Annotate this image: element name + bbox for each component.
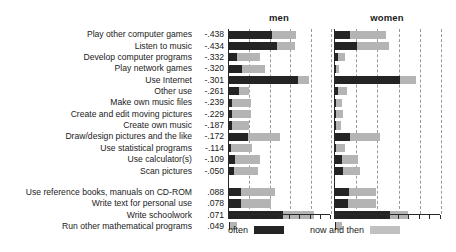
plot-panel-men (228, 29, 331, 214)
category-label: Create own music (123, 121, 192, 130)
category-loading-value: -.320 (197, 64, 224, 73)
category-loading-value: .049 (197, 222, 224, 231)
category-loading-value: -.332 (197, 53, 224, 62)
panel-title-men: men (228, 12, 330, 23)
category-loading-value: -.187 (197, 121, 224, 130)
bar-row (229, 120, 331, 131)
stacked-bar (229, 133, 280, 141)
bar-segment-now-and-then (232, 110, 251, 118)
stacked-bar (335, 167, 360, 175)
category-loading-value: -.261 (197, 87, 224, 96)
bar-segment-now-and-then (237, 53, 259, 61)
bar-row (229, 186, 331, 197)
axis-tick (419, 215, 420, 219)
category-label-row: Play network games-.320 (0, 63, 224, 74)
stacked-bar (229, 53, 260, 61)
bar-segment-now-and-then (336, 99, 342, 107)
category-label-row: Develop computer programs-.332 (0, 52, 224, 63)
stacked-bar (229, 144, 252, 152)
category-label: Play network games (115, 64, 192, 73)
bar-segment-often (335, 167, 343, 175)
bar-row (335, 186, 441, 197)
axis-tick (228, 215, 229, 219)
bar-row (335, 154, 441, 165)
bar-segment-often (229, 42, 277, 50)
axis-tick (345, 215, 346, 219)
bar-segment-often (335, 42, 357, 50)
category-label-row: Write schoolwork.071 (0, 209, 224, 220)
category-label: Write schoolwork (127, 211, 192, 220)
category-loading-value: -.434 (197, 42, 224, 51)
axis-tick (269, 215, 270, 219)
axis-tick (387, 215, 388, 219)
bar-row (229, 63, 331, 74)
bar-group-spacer (335, 176, 441, 186)
bar-segment-often (229, 53, 237, 61)
bar-rows-men (229, 29, 331, 214)
bar-segment-now-and-then (350, 31, 386, 39)
stacked-bar (229, 121, 249, 129)
bar-segment-now-and-then (350, 133, 380, 141)
bar-chart: men women Play other computer games-.438… (0, 0, 456, 252)
axis-tick (334, 215, 335, 219)
bar-segment-now-and-then (338, 87, 346, 95)
legend-item-now-and-then: now and then (310, 225, 400, 235)
bar-segment-now-and-then (277, 42, 295, 50)
chart-legend: often now and then (228, 222, 440, 238)
panel-title-women: women (334, 12, 440, 23)
category-loading-value: -.239 (197, 98, 224, 107)
stacked-bar (335, 65, 339, 73)
category-loading-value: .078 (197, 199, 224, 208)
axis-tick (355, 215, 356, 219)
axis-tick (429, 215, 430, 219)
stacked-bar (335, 110, 343, 118)
category-loading-value: -.109 (197, 155, 224, 164)
bar-segment-often (229, 199, 241, 207)
bar-segment-often (335, 133, 350, 141)
axis-tick (398, 215, 399, 219)
category-label-row: Create own music-.187 (0, 120, 224, 131)
bar-row (335, 131, 441, 142)
category-label: Use calculator(s) (128, 155, 192, 164)
bar-segment-now-and-then (336, 110, 343, 118)
bar-segment-now-and-then (357, 42, 389, 50)
bar-row (335, 63, 441, 74)
bar-segment-often (229, 76, 298, 84)
stacked-bar (229, 155, 260, 163)
stacked-bar (229, 42, 295, 50)
legend-swatch-now-and-then-icon (370, 226, 400, 234)
axis-tick (310, 215, 311, 219)
stacked-bar (229, 167, 258, 175)
category-loading-value: -.114 (197, 144, 224, 153)
axis-tick (320, 215, 321, 219)
bar-segment-now-and-then (349, 188, 377, 196)
category-label-row: Use statistical programs-.114 (0, 142, 224, 153)
stacked-bar (229, 99, 251, 107)
bar-segment-now-and-then (232, 99, 251, 107)
stacked-bar (229, 87, 249, 95)
category-loading-value: -.050 (197, 167, 224, 176)
axis-tick (299, 215, 300, 219)
bar-segment-now-and-then (272, 31, 296, 39)
category-label-row: Other use-.261 (0, 86, 224, 97)
bar-row (229, 52, 331, 63)
stacked-bar (335, 121, 341, 129)
bar-segment-now-and-then (241, 199, 271, 207)
category-label: Use Internet (145, 76, 192, 85)
axis-tick (330, 215, 331, 219)
category-label-row: Listen to music-.434 (0, 40, 224, 51)
x-axis-women (334, 214, 440, 215)
bar-segment-often (229, 133, 248, 141)
bar-segment-now-and-then (338, 53, 344, 61)
bar-row (335, 108, 441, 119)
category-label: Use statistical programs (100, 144, 192, 153)
category-label: Other use (154, 87, 192, 96)
category-label-column: Play other computer games-.438Listen to … (0, 29, 224, 232)
bar-segment-often (335, 155, 342, 163)
legend-item-often: often (228, 225, 284, 235)
axis-tick (376, 215, 377, 219)
legend-swatch-often-icon (254, 226, 284, 234)
category-label: Use reference books, manuals on CD-ROM (26, 188, 192, 197)
axis-tick (259, 215, 260, 219)
category-label-row: Use reference books, manuals on CD-ROM.0… (0, 186, 224, 197)
